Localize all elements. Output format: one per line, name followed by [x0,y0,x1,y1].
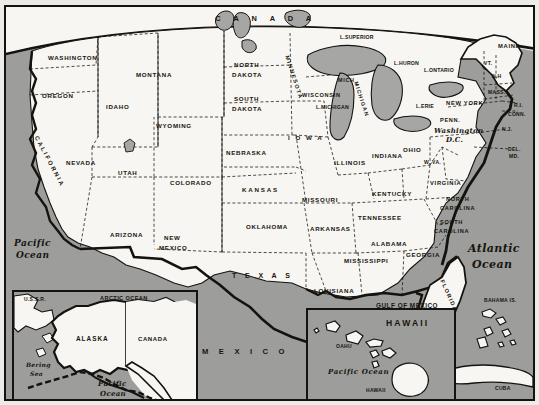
alaska-geometry [14,292,196,401]
hawaii-geometry [308,310,454,401]
lake-superior-shape [307,45,386,75]
map-frame: C A N A D A M E X I C O CUBA BAHAMA IS. … [4,5,535,401]
canada-lake-1 [216,11,235,30]
alaska-inset: U.S.S.R. ARCTIC OCEAN ALASKA CANADA Beri… [12,290,198,401]
bahama-islands [477,309,516,348]
hawaii-inset: HAWAII OAHU Pacific Ocean HAWAII [306,308,456,401]
us-map-image: C A N A D A M E X I C O CUBA BAHAMA IS. … [0,0,539,405]
